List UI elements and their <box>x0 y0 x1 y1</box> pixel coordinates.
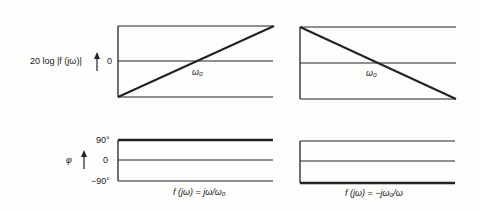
magnitude-zero-label: 0 <box>107 56 112 66</box>
phase-tick-minus-90: −90° <box>91 176 110 186</box>
crossover-label-left: ω₀ <box>192 67 203 77</box>
bode-diagram: 20 log |f (jω)| 0 ω₀ ω₀ φ 90° 0 −90° f (… <box>0 0 479 213</box>
caption-right: f (jω) = −jω₀/ω <box>345 188 403 198</box>
crossover-label-right: ω₀ <box>366 68 377 78</box>
magnitude-axis-label: 20 log |f (jω)| <box>30 56 82 66</box>
caption-left: f (jω) = jω/ω₀ <box>173 187 226 197</box>
phase-up-arrow-icon <box>81 150 87 169</box>
magnitude-panel-right: ω₀ <box>300 27 456 99</box>
phase-axis-label: φ <box>66 155 72 165</box>
phase-tick-0: 0 <box>103 155 108 165</box>
phase-panel-left: f (jω) = jω/ω₀ <box>118 140 273 197</box>
magnitude-panel-left: ω₀ <box>118 26 274 97</box>
phase-tick-90: 90° <box>96 135 110 145</box>
phase-panel-right: f (jω) = −jω₀/ω <box>300 141 455 198</box>
magnitude-up-arrow-icon <box>94 52 100 71</box>
